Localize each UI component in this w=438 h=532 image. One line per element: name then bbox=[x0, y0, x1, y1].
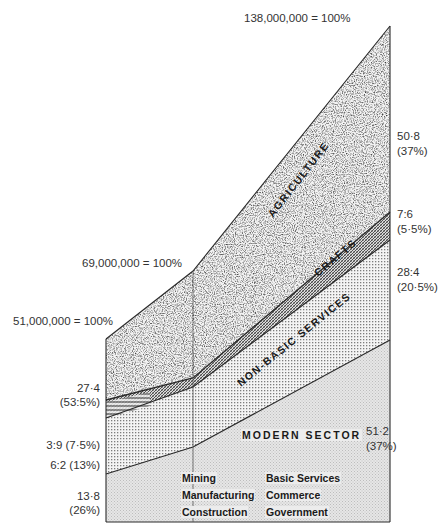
left-crafts-value: 3:9 (7·5%) bbox=[46, 438, 100, 452]
label-modern-sector: MODERN SECTOR bbox=[241, 429, 362, 441]
component-construction: Construction bbox=[181, 506, 248, 518]
right-modern-value: 51·2 bbox=[366, 424, 389, 438]
right-crafts-value: 7:6 bbox=[397, 207, 413, 221]
left-modern-pct: (26%) bbox=[69, 503, 100, 517]
right-agriculture-value: 50·8 bbox=[397, 129, 420, 143]
right-nonbasic-pct: (20·5%) bbox=[397, 280, 438, 294]
component-mining: Mining bbox=[181, 472, 217, 484]
right-nonbasic-value: 28:4 bbox=[397, 265, 419, 279]
left-agriculture-pct: (53:5%) bbox=[60, 395, 100, 409]
total-right-label: 138,000,000 = 100% bbox=[244, 12, 350, 24]
right-modern-pct: (37%) bbox=[366, 439, 397, 453]
component-government: Government bbox=[265, 506, 329, 518]
total-mid-label: 69,000,000 = 100% bbox=[82, 257, 182, 269]
component-manufacturing: Manufacturing bbox=[181, 489, 255, 501]
total-left-label: 51,000,000 = 100% bbox=[13, 315, 113, 327]
component-basic-services: Basic Services bbox=[265, 472, 341, 484]
right-agriculture-pct: (37%) bbox=[397, 144, 428, 158]
left-agriculture-value: 27·4 bbox=[77, 381, 100, 395]
left-modern-value: 13·8 bbox=[77, 489, 100, 503]
left-nonbasic-value: 6:2 (13%) bbox=[50, 458, 100, 472]
component-commerce: Commerce bbox=[265, 489, 321, 501]
right-crafts-pct: (5·5%) bbox=[397, 222, 432, 236]
